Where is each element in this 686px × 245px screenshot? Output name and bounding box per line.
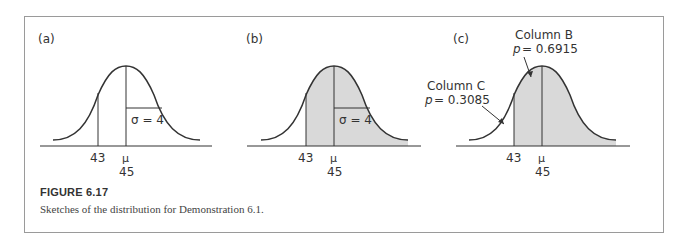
- panel-b-mean-45: 45: [327, 165, 342, 179]
- panel-a-x-43: 43: [90, 151, 105, 165]
- panel-a-sigma-label: σ = 4: [131, 113, 164, 127]
- panel-b-label: (b): [246, 32, 263, 46]
- panel-c: (c) Column B p = 0.6915 Column C p = 0.3…: [424, 28, 630, 179]
- panel-b-sigma-label: σ = 4: [339, 113, 372, 127]
- panel-b-mu: μ: [330, 152, 337, 165]
- panel-b: (b) σ = 4 43 μ 45: [246, 32, 421, 179]
- panel-a-mu: μ: [122, 152, 129, 165]
- panel-c-mean-45: 45: [535, 165, 550, 179]
- panel-c-column-b-value: = 0.6915: [522, 42, 578, 56]
- panel-a-label: (a): [38, 32, 55, 46]
- figure-caption: Sketches of the distribution for Demonst…: [40, 203, 264, 215]
- panel-c-shaded-area: [514, 66, 616, 146]
- panel-a: (a) σ = 4 43 μ 45: [38, 32, 212, 179]
- panel-c-column-b-title: Column B: [515, 28, 573, 42]
- panel-c-column-c-p: p: [424, 93, 433, 107]
- panel-b-x-43: 43: [298, 151, 313, 165]
- panel-c-label: (c): [453, 32, 469, 46]
- panel-c-column-c-title: Column C: [427, 79, 485, 93]
- figure-number: FIGURE 6.17: [40, 186, 108, 198]
- panel-c-mu: μ: [538, 152, 545, 165]
- panel-c-column-b-p: p: [512, 42, 521, 56]
- panel-b-shaded-area: [306, 66, 408, 146]
- panel-c-column-c-value: = 0.3085: [434, 93, 490, 107]
- panel-a-mean-45: 45: [119, 165, 134, 179]
- panel-c-x-43: 43: [506, 151, 521, 165]
